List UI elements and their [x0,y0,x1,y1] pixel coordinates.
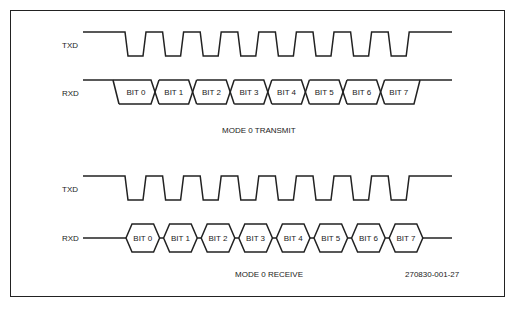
transmit-bit-0: BIT 0 [127,88,147,97]
transmit-rxd-start [113,80,119,104]
transmit-bit-4: BIT 4 [277,88,297,97]
receive-bit-6: BIT 6 [359,234,379,243]
receive-bit-5: BIT 5 [321,234,341,243]
transmit-bit-6: BIT 6 [352,88,372,97]
receive-bit-7: BIT 7 [397,234,417,243]
transmit-bit-2: BIT 2 [202,88,222,97]
receive-bit-3: BIT 3 [246,234,266,243]
receive-bit-2: BIT 2 [209,234,229,243]
transmit-bit-7: BIT 7 [389,88,409,97]
transmit-bit-5: BIT 5 [315,88,335,97]
transmit-txd-waveform [83,32,452,56]
receive-bit-4: BIT 4 [284,234,304,243]
timing-waveforms: BIT 0BIT 1BIT 2BIT 3BIT 4BIT 5BIT 6BIT 7… [0,0,518,311]
transmit-bit-1: BIT 1 [164,88,184,97]
transmit-bit-3: BIT 3 [240,88,260,97]
receive-bit-1: BIT 1 [171,234,191,243]
receive-bit-0: BIT 0 [133,234,153,243]
receive-txd-waveform [83,176,452,200]
